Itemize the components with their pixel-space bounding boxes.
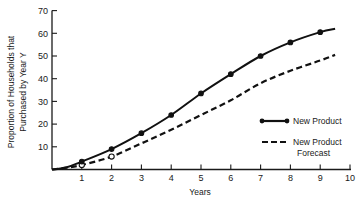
series-new-product [52,29,335,170]
data-point [109,147,114,152]
y-tick-label: 20 [38,119,48,129]
series-new-product-forecast [52,55,335,170]
y-axis-title-line: Purchased by Year Y [18,52,28,132]
legend: New ProductNew ProductForecast [260,116,343,158]
y-tick-label: 10 [38,142,48,152]
y-axis-title: Proportion of Households thatPurchased b… [6,35,28,148]
y-tick-label: 30 [38,97,48,107]
x-tick-label: 3 [139,173,144,183]
data-point [80,159,85,164]
x-tick-label: 5 [198,173,203,183]
chart: Proportion of Households thatPurchased b… [0,0,358,201]
data-point [229,72,234,77]
data-point [139,131,144,136]
x-tick-label: 8 [288,173,293,183]
legend-marker [285,119,290,124]
x-axis-title: Years [189,187,210,197]
legend-marker [260,119,265,124]
y-tick-label: 50 [38,51,48,61]
data-point [169,113,174,118]
legend-label-forecast: New Product [293,137,342,147]
y-tick-label: 40 [38,74,48,84]
x-tick-label: 1 [79,173,84,183]
y-axis-title-line: Proportion of Households that [6,35,16,148]
data-point [199,91,204,96]
y-tick-label: 70 [38,6,48,16]
forecast-data-point [109,154,114,159]
y-tick-label: 60 [38,29,48,39]
x-tick-label: 7 [258,173,263,183]
x-tick-label: 10 [345,173,355,183]
x-tick-label: 9 [318,173,323,183]
x-tick-label: 4 [169,173,174,183]
x-tick-label: 2 [109,173,114,183]
data-point [318,30,323,35]
data-point [288,40,293,45]
x-tick-label: 6 [228,173,233,183]
legend-label-forecast: Forecast [297,148,331,158]
data-point [258,54,263,59]
plot-area [52,29,335,170]
legend-label-new-product: New Product [293,116,342,126]
